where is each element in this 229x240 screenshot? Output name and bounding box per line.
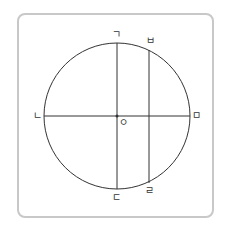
label-bottom-right: ㄹ xyxy=(145,186,154,196)
label-right: ㅁ xyxy=(192,111,201,121)
label-top-right: ㅂ xyxy=(146,36,155,46)
label-left: ㄴ xyxy=(33,111,42,121)
label-bottom: ㄷ xyxy=(112,193,121,203)
label-center: ㅇ xyxy=(119,118,128,128)
label-top: ㄱ xyxy=(112,30,121,40)
